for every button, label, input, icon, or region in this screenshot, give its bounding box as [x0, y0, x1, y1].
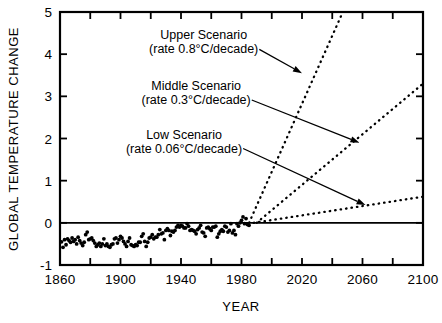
data-point — [75, 242, 79, 246]
data-point — [135, 244, 139, 248]
data-point — [209, 229, 213, 233]
annotation-rate: (rate 0.8°C/decade) — [149, 42, 258, 56]
data-point — [85, 230, 89, 234]
y-tick-label: -1 — [40, 258, 52, 273]
data-point — [150, 233, 154, 237]
annotation-rate: (rate 0.3°C/decade) — [142, 93, 251, 107]
data-point — [82, 240, 86, 244]
data-point — [240, 218, 244, 222]
data-point — [141, 232, 145, 236]
data-point — [76, 235, 80, 239]
y-tick-label: 5 — [44, 5, 52, 20]
data-point — [161, 231, 165, 235]
data-point — [61, 245, 65, 249]
x-tick-label: 1900 — [105, 272, 136, 287]
data-point — [169, 234, 173, 238]
y-axis-title: GLOBAL TEMPERATURE CHANGE — [6, 27, 21, 251]
x-axis-title: YEAR — [222, 299, 259, 314]
data-point — [125, 245, 129, 249]
data-point — [162, 238, 166, 242]
annotation-title: Middle Scenario — [151, 79, 241, 93]
y-tick-label: 0 — [44, 216, 52, 231]
data-point — [234, 233, 238, 237]
data-point — [199, 223, 203, 227]
data-point — [126, 239, 130, 243]
data-point — [102, 237, 106, 241]
data-point — [158, 228, 162, 232]
temperature-projection-chart: 1860190019401980202020602100 -1012345 Up… — [0, 0, 442, 323]
annotation-rate: (rate 0.06°C/decade) — [126, 142, 242, 156]
data-point — [146, 240, 150, 244]
data-point — [111, 242, 115, 246]
x-tick-label: 2100 — [407, 272, 438, 287]
data-point — [244, 217, 248, 221]
y-tick-label: 2 — [44, 132, 52, 147]
data-point — [138, 240, 142, 244]
data-point — [194, 232, 198, 236]
data-point — [173, 229, 177, 233]
data-point — [221, 229, 225, 233]
x-tick-label: 2020 — [286, 272, 317, 287]
data-point — [228, 229, 232, 233]
x-tick-label: 2060 — [347, 272, 378, 287]
data-point — [247, 223, 251, 227]
annotation-title: Upper Scenario — [160, 28, 247, 42]
y-tick-label: 4 — [44, 47, 52, 62]
data-point — [215, 235, 219, 239]
data-point — [73, 238, 77, 242]
data-point — [229, 222, 233, 226]
data-point — [203, 234, 207, 238]
data-point — [224, 225, 228, 229]
data-point — [116, 241, 120, 245]
figure-container: 1860190019401980202020602100 -1012345 Up… — [0, 0, 442, 323]
x-tick-label: 1940 — [165, 272, 196, 287]
x-tick-label: 1980 — [226, 272, 257, 287]
data-point — [144, 245, 148, 249]
data-point — [232, 229, 236, 233]
data-point — [64, 243, 68, 247]
data-point — [187, 224, 191, 228]
data-point — [120, 236, 124, 240]
data-point — [202, 231, 206, 235]
x-tick-label: 1860 — [44, 272, 75, 287]
y-tick-label: 1 — [44, 174, 52, 189]
data-point — [81, 244, 85, 248]
data-point — [237, 224, 241, 228]
data-point — [128, 236, 132, 240]
annotation-title: Low Scenario — [146, 128, 222, 142]
data-point — [214, 224, 218, 228]
y-tick-label: 3 — [44, 89, 52, 104]
